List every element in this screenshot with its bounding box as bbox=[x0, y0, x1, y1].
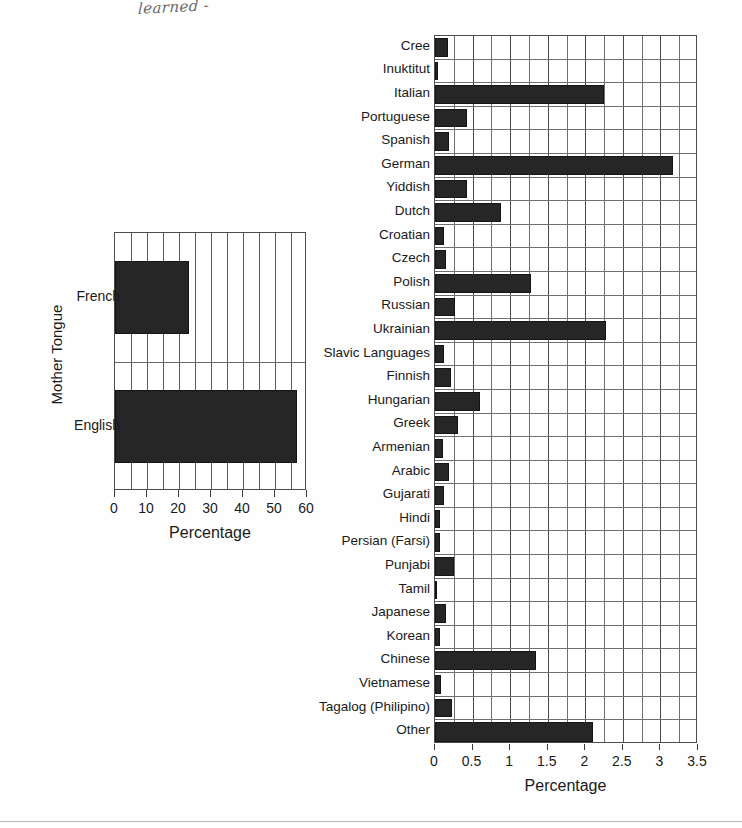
x-tick-label: 3.5 bbox=[679, 753, 715, 769]
category-label-tamil: Tamil bbox=[240, 581, 430, 596]
gridline-horizontal bbox=[115, 362, 305, 363]
bar-other bbox=[435, 722, 593, 742]
chart-row bbox=[435, 343, 696, 367]
category-label-korean: Korean bbox=[240, 628, 430, 643]
bar-japanese bbox=[435, 604, 446, 623]
bar-chinese bbox=[435, 651, 536, 670]
chart-row bbox=[435, 626, 696, 650]
category-label-vietnamese: Vietnamese bbox=[240, 675, 430, 690]
chart-row bbox=[435, 390, 696, 414]
x-tick-label: 0.5 bbox=[454, 753, 490, 769]
chart-row bbox=[435, 154, 696, 178]
category-label-inuktitut: Inuktitut bbox=[240, 61, 430, 76]
bar-tamil bbox=[435, 581, 437, 600]
bar-slavic-languages bbox=[435, 345, 444, 364]
chart-row bbox=[435, 60, 696, 84]
bar-russian bbox=[435, 298, 455, 317]
bar-inuktitut bbox=[435, 62, 438, 81]
category-label-portuguese: Portuguese bbox=[240, 109, 430, 124]
x-tick-label: 10 bbox=[129, 500, 163, 516]
category-label-english: English bbox=[30, 417, 120, 433]
bar-ukrainian bbox=[435, 321, 606, 340]
category-label-french: French bbox=[30, 288, 120, 304]
bar-yiddish bbox=[435, 180, 467, 199]
bar-vietnamese bbox=[435, 675, 441, 694]
chart-row bbox=[435, 272, 696, 296]
x-tick-label: 2.5 bbox=[604, 753, 640, 769]
chart-row bbox=[435, 673, 696, 697]
axis-tick bbox=[509, 744, 510, 750]
category-label-gujarati: Gujarati bbox=[240, 486, 430, 501]
category-label-greek: Greek bbox=[240, 415, 430, 430]
chart-row bbox=[435, 414, 696, 438]
category-label-croatian: Croatian bbox=[240, 227, 430, 242]
x-tick-label: 20 bbox=[161, 500, 195, 516]
category-label-hungarian: Hungarian bbox=[240, 392, 430, 407]
category-label-japanese: Japanese bbox=[240, 604, 430, 619]
category-label-german: German bbox=[240, 156, 430, 171]
bar-greek bbox=[435, 416, 458, 435]
right-chart-plot-area bbox=[434, 35, 697, 743]
chart-row bbox=[435, 697, 696, 721]
chart-row bbox=[435, 579, 696, 603]
x-tick-label: 0 bbox=[416, 753, 452, 769]
chart-row bbox=[435, 130, 696, 154]
chart-row bbox=[435, 484, 696, 508]
chart-row bbox=[435, 319, 696, 343]
chart-row bbox=[435, 36, 696, 60]
axis-tick bbox=[178, 490, 179, 497]
chart-row bbox=[435, 366, 696, 390]
bar-dutch bbox=[435, 203, 501, 222]
bar-armenian bbox=[435, 439, 443, 458]
axis-tick bbox=[434, 744, 435, 750]
category-label-other: Other bbox=[240, 722, 430, 737]
bar-croatian bbox=[435, 227, 444, 246]
chart-row bbox=[435, 555, 696, 579]
axis-tick bbox=[146, 490, 147, 497]
chart-row bbox=[435, 296, 696, 320]
chart-row bbox=[435, 107, 696, 131]
axis-tick bbox=[472, 744, 473, 750]
category-label-ukrainian: Ukrainian bbox=[240, 321, 430, 336]
category-label-polish: Polish bbox=[240, 274, 430, 289]
bar-portuguese bbox=[435, 109, 467, 128]
category-label-slavic-languages: Slavic Languages bbox=[240, 345, 430, 360]
axis-tick bbox=[622, 744, 623, 750]
right-chart-x-axis-label: Percentage bbox=[434, 777, 697, 795]
page-bottom-rule bbox=[0, 821, 742, 822]
bar-persian-farsi bbox=[435, 533, 440, 552]
category-label-italian: Italian bbox=[240, 85, 430, 100]
bar-arabic bbox=[435, 463, 449, 482]
category-label-yiddish: Yiddish bbox=[240, 179, 430, 194]
chart-row bbox=[435, 225, 696, 249]
chart-row bbox=[435, 437, 696, 461]
bar-korean bbox=[435, 628, 440, 647]
bar-hindi bbox=[435, 510, 440, 529]
category-label-chinese: Chinese bbox=[240, 651, 430, 666]
category-label-punjabi: Punjabi bbox=[240, 557, 430, 572]
figure-page: learned - Mother Tongue FrenchEnglish 01… bbox=[0, 0, 742, 828]
chart-row bbox=[435, 178, 696, 202]
bar-italian bbox=[435, 85, 604, 104]
bar-hungarian bbox=[435, 392, 480, 411]
x-tick-label: 1.5 bbox=[529, 753, 565, 769]
handwritten-annotation: learned - bbox=[138, 0, 210, 18]
axis-tick bbox=[659, 744, 660, 750]
chart-row bbox=[435, 248, 696, 272]
bar-spanish bbox=[435, 132, 449, 151]
category-label-hindi: Hindi bbox=[240, 510, 430, 525]
chart-row bbox=[435, 531, 696, 555]
category-label-armenian: Armenian bbox=[240, 439, 430, 454]
right-chart-rows bbox=[435, 36, 696, 744]
category-label-russian: Russian bbox=[240, 297, 430, 312]
x-tick-label: 30 bbox=[193, 500, 227, 516]
bar-french bbox=[115, 261, 189, 333]
x-tick-label: 0 bbox=[97, 500, 131, 516]
chart-row bbox=[435, 461, 696, 485]
axis-tick bbox=[114, 490, 115, 497]
chart-row bbox=[435, 201, 696, 225]
category-label-dutch: Dutch bbox=[240, 203, 430, 218]
category-label-tagalog-philipino: Tagalog (Philipino) bbox=[240, 699, 430, 714]
x-tick-label: 1 bbox=[491, 753, 527, 769]
bar-finnish bbox=[435, 368, 451, 387]
